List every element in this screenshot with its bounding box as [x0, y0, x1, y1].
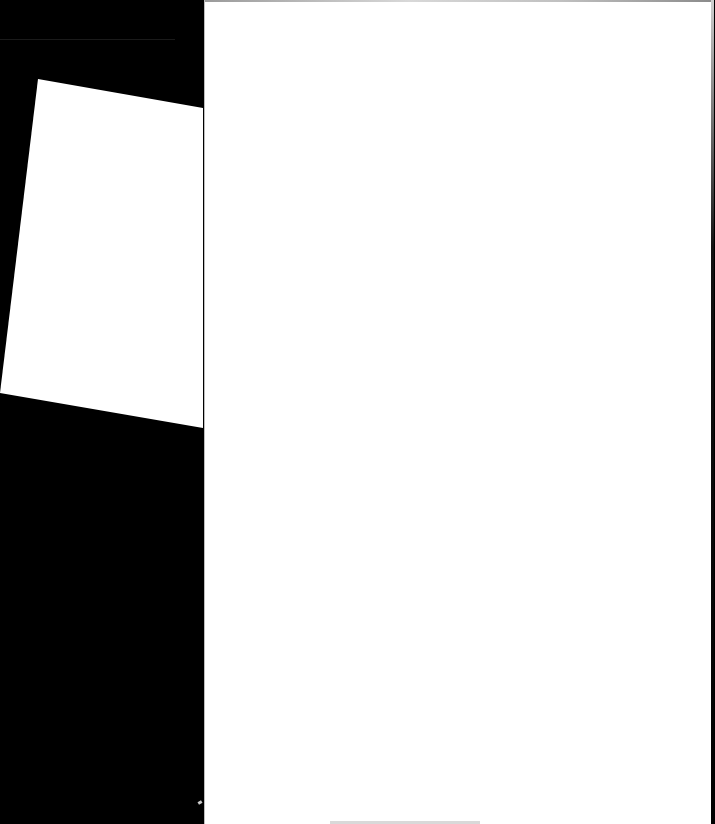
blank-paper-page — [204, 0, 714, 824]
tilted-sheet-shape — [0, 79, 203, 428]
